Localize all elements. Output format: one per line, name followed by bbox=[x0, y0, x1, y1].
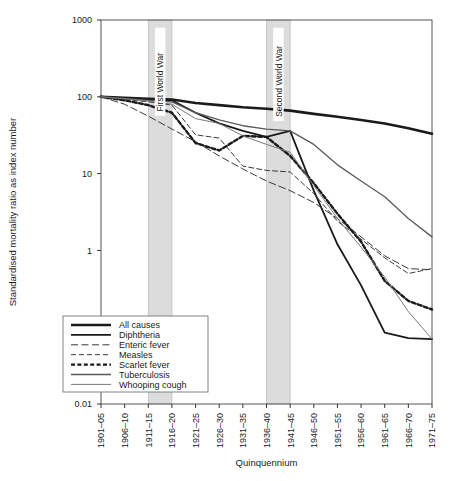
mortality-line-chart: 10001001010.10.01 1901–051906–101911–151… bbox=[0, 0, 453, 481]
y-tick-label: 10 bbox=[82, 169, 92, 179]
y-tick-label: 0.01 bbox=[74, 399, 92, 409]
legend-label-scarlet-fever: Scarlet fever bbox=[119, 360, 170, 370]
band-label: Second World War bbox=[274, 46, 284, 117]
y-axis-title: Standardised mortality ratio as index nu… bbox=[7, 118, 18, 307]
x-tick-label: 1916–20 bbox=[167, 413, 177, 448]
legend-label-whooping-cough: Whooping cough bbox=[119, 380, 187, 390]
x-tick-label: 1926–30 bbox=[215, 413, 225, 448]
legend-label-measles: Measles bbox=[119, 350, 153, 360]
legend-label-enteric-fever: Enteric fever bbox=[119, 340, 170, 350]
x-tick-label: 1956–60 bbox=[356, 413, 366, 448]
x-tick-label: 1906–10 bbox=[120, 413, 130, 448]
band-labels: First World WarSecond World War bbox=[155, 28, 283, 121]
x-tick-label: 1966–70 bbox=[404, 413, 414, 448]
band-label: First World War bbox=[155, 53, 165, 112]
x-tick-label: 1936–40 bbox=[262, 413, 272, 448]
x-tick-label: 1931–35 bbox=[238, 413, 248, 448]
x-axis-title: Quinquennium bbox=[236, 457, 298, 468]
legend-label-all-causes: All causes bbox=[119, 320, 161, 330]
x-tick-label: 1951–55 bbox=[333, 413, 343, 448]
x-tick-label: 1946–50 bbox=[309, 413, 319, 448]
x-tick-label: 1921–25 bbox=[191, 413, 201, 448]
x-tick-label: 1911–15 bbox=[144, 413, 154, 447]
legend: All causesDiphtheriaEnteric feverMeasles… bbox=[63, 316, 208, 392]
y-tick-label: 1 bbox=[87, 246, 92, 256]
x-tick-label: 1901–05 bbox=[96, 413, 106, 448]
legend-label-diphtheria: Diphtheria bbox=[119, 330, 160, 340]
y-tick-label: 100 bbox=[77, 92, 92, 102]
x-tick-label: 1971–75 bbox=[427, 413, 437, 448]
x-axis: 1901–051906–101911–151916–201921–251926–… bbox=[96, 404, 437, 448]
x-tick-label: 1941–45 bbox=[286, 413, 296, 448]
legend-label-tuberculosis: Tuberculosis bbox=[119, 370, 170, 380]
chart-container: 10001001010.10.01 1901–051906–101911–151… bbox=[0, 0, 453, 481]
x-tick-label: 1961–65 bbox=[380, 413, 390, 448]
y-tick-label: 1000 bbox=[72, 15, 92, 25]
